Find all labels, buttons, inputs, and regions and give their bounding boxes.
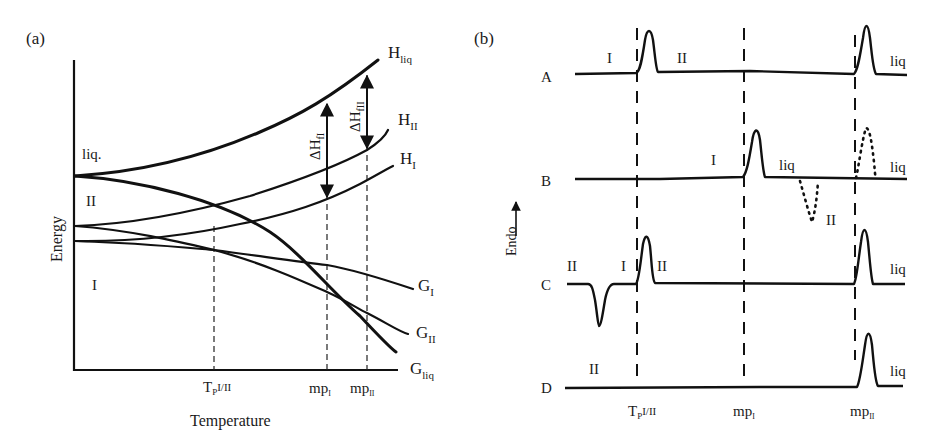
trace-b-phase-ii: II (826, 212, 836, 228)
trace-a-liq: liq (890, 53, 906, 69)
tick-tp-a: TPI/II (203, 379, 232, 397)
delta-h-fi-label: ΔHfI (307, 133, 326, 160)
trace-a-phase-i: I (607, 50, 612, 66)
trace-c: C II I II liq (541, 230, 906, 326)
trace-b-phase-i: I (711, 152, 716, 168)
trace-d-phase-ii: II (589, 361, 599, 377)
tick-mp1-a: mpI (309, 380, 331, 398)
g-ii-label: GII (416, 323, 436, 345)
tick-mp2-b: mpII (850, 403, 875, 421)
trace-a-phase-ii: II (677, 50, 687, 66)
trace-b-liq-2: liq (890, 159, 906, 175)
tick-mp2-a: mpII (350, 380, 375, 398)
trace-d-label: D (541, 380, 552, 396)
trace-a-line (575, 26, 907, 75)
trace-d: D II liq (541, 334, 906, 396)
region-liq-label: liq. (82, 146, 102, 162)
h-liq-label: Hliq (388, 43, 412, 65)
trace-c-label: C (541, 277, 551, 293)
trace-a-label: A (541, 69, 552, 85)
trace-b-liq-1: liq (779, 157, 795, 173)
trace-c-phase-ii-2: II (657, 258, 667, 274)
g-liq-label: Gliq (410, 359, 434, 381)
svg-text:ΔHfII: ΔHfII (347, 102, 366, 132)
panel-b: (b) Endo A I II liq B I liq II liq (474, 26, 907, 421)
panel-b-label: (b) (474, 29, 494, 48)
x-axis-label: Temperature (190, 412, 271, 430)
h-ii-label: HII (398, 110, 418, 132)
trace-b-endotherm-dotted (856, 128, 876, 178)
region-i-label: I (92, 277, 97, 293)
figure-canvas: (a) Energy ΔHfI ΔHfII liq. II (0, 0, 943, 448)
trace-d-line (565, 334, 903, 388)
y-axis-label: Energy (48, 216, 66, 262)
h-i-label: HI (400, 149, 416, 171)
trace-c-phase-ii-1: II (567, 258, 577, 274)
g-i-label: GI (418, 276, 434, 298)
tick-tp-b: TPI/II (628, 403, 657, 421)
region-ii-label: II (86, 193, 96, 209)
g-liq-curve (75, 176, 396, 352)
trace-d-liq: liq (890, 363, 906, 379)
svg-text:ΔHfI: ΔHfI (307, 133, 326, 160)
trace-b-exotherm-dotted (800, 181, 818, 222)
panel-a-label: (a) (26, 29, 45, 48)
tick-mp1-b: mpI (733, 403, 755, 421)
trace-b-label: B (541, 173, 551, 189)
trace-a: A I II liq (541, 26, 907, 85)
trace-c-phase-i: I (621, 258, 626, 274)
panel-a: (a) Energy ΔHfI ΔHfII liq. II (26, 29, 436, 430)
trace-b: B I liq II liq (541, 128, 907, 228)
h-liq-curve (75, 60, 378, 176)
trace-c-liq: liq (890, 261, 906, 277)
delta-h-fii-label: ΔHfII (347, 102, 366, 132)
h-i-curve (75, 166, 393, 241)
g-i-curve (75, 241, 413, 289)
